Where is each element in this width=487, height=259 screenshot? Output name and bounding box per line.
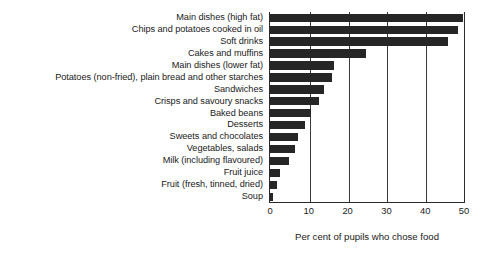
x-tick-label: 20: [342, 205, 352, 216]
bar-chart: Main dishes (high fat)Chips and potatoes…: [0, 0, 487, 259]
category-label: Fruit (fresh, tinned, dried): [161, 179, 263, 191]
bar-row: [270, 143, 464, 155]
x-tick-label: 0: [267, 205, 272, 216]
category-label: Main dishes (high fat): [176, 12, 263, 24]
category-label: Main dishes (lower fat): [172, 60, 263, 72]
bar: [270, 61, 334, 69]
category-label: Sandwiches: [214, 84, 263, 96]
x-axis-title: Per cent of pupils who chose food: [269, 231, 465, 242]
category-label: Chips and potatoes cooked in oil: [132, 24, 263, 36]
bar: [270, 14, 463, 22]
bar-row: [270, 36, 464, 48]
bar-row: [270, 84, 464, 96]
category-label: Baked beans: [210, 108, 263, 120]
bar-row: [270, 191, 464, 203]
bar: [270, 193, 273, 201]
bar-row: [270, 24, 464, 36]
bar: [270, 26, 458, 34]
category-label-column: Main dishes (high fat)Chips and potatoes…: [0, 12, 266, 203]
bar-row: [270, 60, 464, 72]
bar: [270, 121, 305, 129]
bar: [270, 85, 324, 93]
bar-row: [270, 72, 464, 84]
bar: [270, 181, 277, 189]
bar-row: [270, 12, 464, 24]
x-tick-label: 10: [304, 205, 314, 216]
bar: [270, 73, 332, 81]
bar-row: [270, 179, 464, 191]
category-label: Fruit juice: [224, 167, 263, 179]
x-axis-ticks: 01020304050: [269, 204, 465, 218]
bar-row: [270, 48, 464, 60]
bar-row: [270, 167, 464, 179]
bar: [270, 169, 280, 177]
bar: [270, 109, 311, 117]
category-label: Vegetables, salads: [187, 143, 263, 155]
category-label: Soup: [242, 191, 263, 203]
bar: [270, 157, 289, 165]
bar: [270, 49, 366, 57]
bar: [270, 133, 298, 141]
bar-row: [270, 155, 464, 167]
category-label: Desserts: [227, 119, 263, 131]
category-label: Potatoes (non-fried), plain bread and ot…: [55, 72, 263, 84]
bar-row: [270, 96, 464, 108]
plot-area: [269, 12, 465, 203]
x-tick-label: 30: [381, 205, 391, 216]
category-label: Soft drinks: [220, 36, 263, 48]
x-tick-label: 40: [420, 205, 430, 216]
category-label: Milk (including flavoured): [163, 155, 263, 167]
bar-row: [270, 119, 464, 131]
bar-row: [270, 108, 464, 120]
x-tick-label: 50: [459, 205, 469, 216]
category-label: Sweets and chocolates: [170, 131, 263, 143]
bar: [270, 145, 295, 153]
category-label: Cakes and muffins: [188, 48, 263, 60]
bar-row: [270, 131, 464, 143]
bar: [270, 37, 448, 45]
bar: [270, 97, 319, 105]
category-label: Crisps and savoury snacks: [154, 96, 263, 108]
